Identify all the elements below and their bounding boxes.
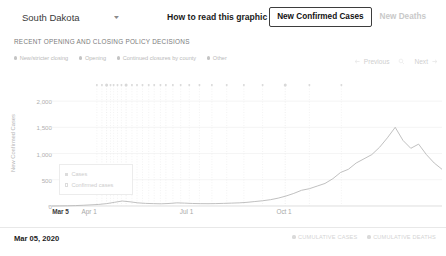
chevron-down-icon: ▾ — [114, 14, 119, 20]
legend-swatch-icon — [65, 173, 68, 176]
event-marker-dot[interactable] — [243, 84, 245, 86]
legend-swatch-icon — [117, 56, 120, 59]
footer-legend-label: CUMULATIVE DEATHS — [373, 234, 436, 240]
event-marker-dot[interactable] — [113, 84, 115, 86]
arrow-right-icon — [431, 58, 438, 65]
event-marker-dot[interactable] — [340, 84, 342, 86]
previous-label: Previous — [364, 58, 390, 65]
event-marker-dot[interactable] — [262, 84, 264, 86]
legend-item-label: Continued closures by county — [123, 55, 196, 61]
event-marker-dot[interactable] — [110, 84, 112, 86]
event-marker-dot[interactable] — [153, 84, 155, 86]
chart-legend-item: Confirmed cases — [65, 180, 127, 191]
event-marker-dot[interactable] — [211, 84, 213, 86]
event-marker-dot[interactable] — [125, 84, 128, 87]
event-marker-dot[interactable] — [96, 84, 98, 86]
chart-area: New Confirmed Cases 05001,0001,5002,000 … — [0, 78, 446, 226]
event-marker-dot[interactable] — [180, 84, 182, 86]
tab-new-deaths[interactable]: New Deaths — [372, 7, 434, 27]
legend-swatch-icon — [65, 183, 68, 186]
legend-item-label: New/stricter closing — [20, 55, 69, 61]
footer-legend: CUMULATIVE CASES CUMULATIVE DEATHS — [292, 234, 436, 240]
event-marker-dot[interactable] — [198, 84, 200, 86]
footer-bar: Mar 05, 2020 CUMULATIVE CASES CUMULATIVE… — [0, 227, 446, 256]
event-marker-dot[interactable] — [308, 84, 310, 86]
event-marker-dot[interactable] — [117, 84, 119, 86]
legend-dot-icon — [367, 235, 370, 238]
event-marker-dot[interactable] — [226, 84, 228, 86]
x-axis-tick-label: Mar 5 — [52, 208, 69, 215]
chart-legend-label: Cases — [71, 169, 87, 180]
x-axis-tick-label: Apr 1 — [81, 208, 96, 215]
legend-item: New/stricter closing — [14, 55, 68, 61]
chart-legend-label: Confirmed cases — [71, 180, 113, 191]
state-dropdown-label: South Dakota — [22, 12, 80, 23]
previous-button[interactable]: Previous — [354, 58, 390, 65]
footer-legend-item: CUMULATIVE DEATHS — [367, 234, 436, 240]
event-marker-dot[interactable] — [148, 84, 150, 86]
x-axis-tick-label: Jul 1 — [180, 208, 194, 215]
metric-toggle-group: New Confirmed Cases New Deaths — [269, 7, 434, 27]
legend-item: Continued closures by county — [117, 55, 196, 61]
event-marker-dot[interactable] — [101, 84, 103, 86]
state-dropdown[interactable]: South Dakota ▾ — [22, 8, 118, 26]
legend-swatch-icon — [207, 56, 210, 59]
legend-item-label: Other — [213, 55, 227, 61]
policy-legend: New/stricter closing Opening Continued c… — [14, 55, 227, 61]
section-title: RECENT OPENING AND CLOSING POLICY DECISI… — [14, 38, 190, 45]
legend-item-label: Opening — [85, 55, 106, 61]
how-to-read-link[interactable]: How to read this graphic — [167, 12, 267, 22]
event-marker-dot[interactable] — [141, 84, 143, 86]
pagination-controls: Previous Next — [354, 58, 438, 65]
footer-date: Mar 05, 2020 — [14, 234, 59, 243]
arrow-left-icon — [354, 58, 361, 65]
x-axis-tick-label: Oct 1 — [276, 208, 291, 215]
chart-inline-legend: Cases Confirmed cases — [59, 164, 133, 195]
search-icon[interactable] — [398, 58, 405, 65]
event-marker-dot[interactable] — [120, 84, 122, 86]
event-marker-dot[interactable] — [172, 84, 174, 86]
footer-legend-item: CUMULATIVE CASES — [292, 234, 357, 240]
event-marker-dot[interactable] — [165, 84, 167, 86]
event-marker-dot[interactable] — [105, 84, 108, 87]
next-button[interactable]: Next — [414, 58, 438, 65]
footer-legend-label: CUMULATIVE CASES — [298, 234, 357, 240]
event-marker-dot[interactable] — [136, 84, 138, 86]
toolbar: South Dakota ▾ How to read this graphic … — [0, 0, 446, 34]
event-marker-dot[interactable] — [188, 84, 190, 86]
x-axis-ticks: Mar 5Apr 1Jul 1Oct 1 — [0, 208, 446, 222]
legend-dot-icon — [292, 235, 295, 238]
legend-item: Other — [207, 55, 227, 61]
tab-new-confirmed-cases[interactable]: New Confirmed Cases — [269, 7, 371, 27]
legend-swatch-icon — [79, 56, 82, 59]
event-marker-dot[interactable] — [131, 84, 133, 86]
legend-item: Opening — [79, 55, 106, 61]
legend-swatch-icon — [14, 56, 17, 59]
event-marker-dot[interactable] — [284, 84, 287, 87]
chart-legend-item: Cases — [65, 169, 127, 180]
next-label: Next — [414, 58, 428, 65]
event-marker-dot[interactable] — [159, 84, 161, 86]
